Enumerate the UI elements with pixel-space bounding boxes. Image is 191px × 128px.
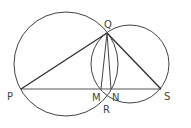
label-n: N — [112, 92, 119, 103]
segment-qm — [101, 33, 107, 89]
segment-pq — [21, 33, 107, 89]
label-r: R — [103, 104, 110, 115]
right-circle — [91, 25, 169, 103]
geometry-diagram: Q P M N R S — [0, 0, 191, 128]
label-m: M — [92, 92, 101, 103]
label-p: P — [7, 91, 13, 102]
segment-qn — [107, 33, 111, 89]
label-s: S — [164, 91, 170, 102]
left-circle — [14, 12, 118, 116]
label-q: Q — [104, 19, 112, 30]
